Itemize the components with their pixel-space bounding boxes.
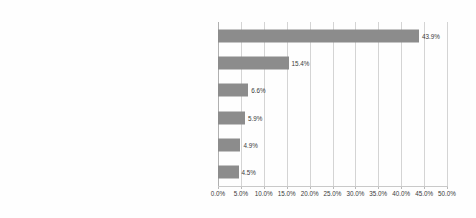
- bar: [218, 56, 289, 69]
- bar-value-label: 6.6%: [251, 87, 265, 94]
- bar-row: Better understanding of environmental po…: [0, 77, 476, 104]
- x-axis-tick-label: 25.0%: [324, 190, 342, 197]
- x-axis-tick-label: 30.0%: [346, 190, 364, 197]
- bar-row: Making business contacts15.4%: [0, 49, 476, 76]
- bar-row: Avoidance of penalties for failure to co…: [0, 104, 476, 131]
- x-axis-tick-label: 5.0%: [234, 190, 248, 197]
- bar: [218, 166, 239, 179]
- bar-row: Gaining competitive advantage4.5%: [0, 159, 476, 186]
- bar-value-label: 4.5%: [242, 169, 256, 176]
- bar-value-label: 43.9%: [422, 32, 440, 39]
- x-axis-tick-label: 0.0%: [211, 190, 225, 197]
- bar-row: Making new business contacts in the area…: [0, 22, 476, 49]
- x-axis-tick-label: 40.0%: [392, 190, 410, 197]
- bar-value-label: 4.9%: [243, 141, 257, 148]
- x-axis-tick-label: 35.0%: [369, 190, 387, 197]
- x-axis-tick-label: 20.0%: [301, 190, 319, 197]
- bar: [218, 29, 419, 42]
- bar-value-label: 15.4%: [292, 59, 310, 66]
- bar-value-label: 5.9%: [248, 114, 262, 121]
- x-axis-tick-label: 45.0%: [415, 190, 433, 197]
- bar-chart: Making new business contacts in the area…: [0, 0, 476, 218]
- x-axis-baseline: [218, 186, 448, 187]
- x-axis-tick-label: 10.0%: [255, 190, 273, 197]
- x-axis-tick-label: 50.0%: [438, 190, 456, 197]
- bar: [218, 111, 245, 124]
- bar: [218, 84, 248, 97]
- x-axis-tick-label: 15.0%: [278, 190, 296, 197]
- bar-row: Reduction in distribution costs4.9%: [0, 131, 476, 158]
- bar: [218, 138, 240, 151]
